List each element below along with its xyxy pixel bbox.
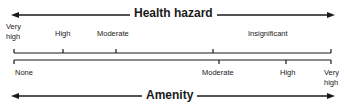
top-label-very-high-line1: Very [6, 22, 21, 32]
top-label-very-high-line2: high [6, 32, 21, 42]
bottom-label-moderate: Moderate [202, 68, 234, 78]
bottom-label-high: High [280, 68, 295, 78]
health-hazard-scale [14, 49, 331, 53]
top-label-moderate: Moderate [97, 29, 129, 39]
bottom-label-very-high-line2: high [324, 78, 339, 88]
amenity-title: Amenity [142, 88, 197, 102]
bottom-label-very-high-line1: Very [324, 68, 339, 78]
health-hazard-title: Health hazard [130, 6, 217, 20]
bottom-label-none: None [15, 68, 33, 78]
top-label-very-high: Very high [6, 22, 21, 42]
top-label-insignificant: Insignificant [248, 29, 288, 39]
amenity-scale [14, 60, 331, 64]
top-label-high: High [55, 29, 70, 39]
bottom-label-very-high: Very high [324, 68, 339, 88]
